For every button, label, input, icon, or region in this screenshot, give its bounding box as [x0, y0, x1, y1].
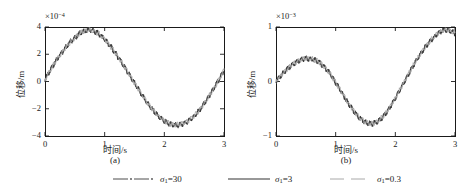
x-tick-label: 3 — [443, 139, 463, 149]
series-line — [276, 28, 455, 126]
y-tick-label: −2 — [19, 103, 41, 113]
y-tick-label: 2 — [19, 48, 41, 58]
x-tick-label: 1 — [93, 139, 117, 149]
series-line — [45, 28, 224, 127]
legend-line-swatch — [330, 174, 372, 184]
y-tick-label: 4 — [19, 21, 41, 31]
chart-panel-b: ×10−3 位移/m 时间/s (b) 012310−1 — [231, 0, 463, 168]
legend-line-swatch — [113, 174, 155, 184]
subcaption-b: (b) — [286, 155, 406, 165]
y-tick-label: −1 — [250, 130, 272, 140]
legend-label: σ1=3 — [275, 174, 292, 184]
chart-panel-a: ×10−4 位移/m 时间/s (a) 0123420−2−4 — [0, 0, 232, 168]
x-tick-label: 1 — [324, 139, 348, 149]
legend-label: σ1=30 — [160, 174, 182, 184]
legend-line-swatch — [228, 174, 270, 184]
legend-item: σ1=3 — [228, 170, 292, 188]
legend-label: σ1=0.3 — [377, 174, 401, 184]
y-tick-label: 0 — [19, 76, 41, 86]
subcaption-a: (a) — [55, 155, 175, 165]
x-tick-label: 0 — [33, 139, 57, 149]
figure-root: ×10−4 位移/m 时间/s (a) 0123420−2−4 ×10−3 位移… — [0, 0, 463, 192]
legend: σ1=30σ1=3σ1=0.3 — [0, 168, 463, 192]
x-tick-label: 2 — [152, 139, 176, 149]
y-tick-label: −4 — [19, 130, 41, 140]
x-tick-label: 2 — [383, 139, 407, 149]
legend-item: σ1=30 — [113, 170, 182, 188]
y-tick-label: 0 — [250, 76, 272, 86]
x-tick-label: 0 — [264, 139, 288, 149]
y-tick-label: 1 — [250, 21, 272, 31]
legend-item: σ1=0.3 — [330, 170, 401, 188]
